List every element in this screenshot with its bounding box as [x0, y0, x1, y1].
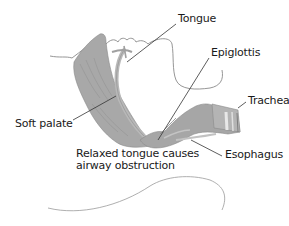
anatomy-illustration [0, 0, 289, 226]
label-trachea: Trachea [248, 95, 289, 107]
tongue-leader [127, 24, 176, 62]
label-esophagus: Esophagus [225, 149, 283, 161]
label-epiglottis: Epiglottis [211, 47, 260, 59]
label-soft-palate: Soft palate [15, 118, 73, 130]
teeth-outline [106, 38, 148, 44]
caption-line-2: airway obstruction [76, 160, 199, 172]
airway-obstruction-diagram: Tongue Epiglottis Trachea Soft palate Es… [0, 0, 289, 226]
trachea-leader [238, 102, 246, 108]
diagram-caption: Relaxed tongue causes airway obstruction [76, 148, 199, 172]
label-tongue: Tongue [178, 13, 216, 25]
chin-outline [48, 177, 225, 211]
